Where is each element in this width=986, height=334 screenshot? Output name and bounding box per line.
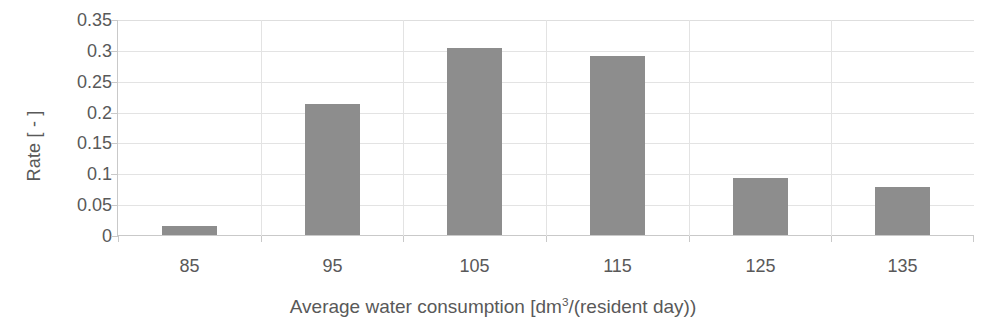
x-axis-tick-label: 85 xyxy=(118,252,261,280)
gridline-vertical xyxy=(261,20,262,236)
y-axis-tick xyxy=(111,205,118,206)
x-axis-title-main: Average water consumption [dm xyxy=(290,296,562,317)
x-axis-title-tail: /(resident day)) xyxy=(568,296,696,317)
gridline-vertical xyxy=(689,20,690,236)
x-axis-tick xyxy=(261,236,262,242)
y-axis-line xyxy=(117,20,118,236)
y-axis-tick xyxy=(111,143,118,144)
x-axis-title: Average water consumption [dm3/(resident… xyxy=(0,296,986,318)
y-axis-tick-label: 0.2 xyxy=(50,101,112,125)
y-axis-tick xyxy=(111,20,118,21)
x-axis-tick-label: 135 xyxy=(831,252,974,280)
y-axis-tick-labels: 00.050.10.150.20.250.30.35 xyxy=(50,20,112,236)
bar-135[interactable] xyxy=(875,187,930,235)
gridline-vertical xyxy=(546,20,547,236)
x-axis-tick-label: 95 xyxy=(261,252,404,280)
y-axis-tick-label: 0.35 xyxy=(50,8,112,32)
x-axis-tick xyxy=(689,236,690,242)
x-axis-tick xyxy=(403,236,404,242)
x-axis-tick xyxy=(831,236,832,242)
gridline-vertical xyxy=(403,20,404,236)
x-axis-tick xyxy=(118,236,119,242)
y-axis-tick-label: 0.05 xyxy=(50,193,112,217)
plot-area xyxy=(118,20,974,236)
y-axis-tick-label: 0.3 xyxy=(50,39,112,63)
bar-95[interactable] xyxy=(305,104,360,235)
x-axis-tick-labels: 8595105115125135 xyxy=(118,252,974,280)
y-axis-tick xyxy=(111,51,118,52)
y-axis-tick-label: 0 xyxy=(50,224,112,248)
y-axis-tick-label: 0.15 xyxy=(50,131,112,155)
x-axis-tick-label: 105 xyxy=(403,252,546,280)
y-axis-tick-label: 0.1 xyxy=(50,162,112,186)
x-axis-tick xyxy=(546,236,547,242)
y-axis-tick xyxy=(111,82,118,83)
bar-105[interactable] xyxy=(447,48,502,235)
bar-chart: Rate [ - ] 00.050.10.150.20.250.30.35 85… xyxy=(0,0,986,334)
x-axis-tick xyxy=(973,236,974,242)
y-axis-title: Rate [ - ] xyxy=(16,38,52,254)
bar-115[interactable] xyxy=(590,56,645,235)
x-axis-tick-label: 125 xyxy=(689,252,832,280)
y-axis-tick xyxy=(111,174,118,175)
bar-85[interactable] xyxy=(162,226,217,235)
bar-125[interactable] xyxy=(733,178,788,235)
y-axis-tick xyxy=(111,113,118,114)
y-axis-tick-label: 0.25 xyxy=(50,70,112,94)
gridline-vertical xyxy=(831,20,832,236)
x-axis-tick-label: 115 xyxy=(546,252,689,280)
y-axis-tick xyxy=(111,236,118,237)
